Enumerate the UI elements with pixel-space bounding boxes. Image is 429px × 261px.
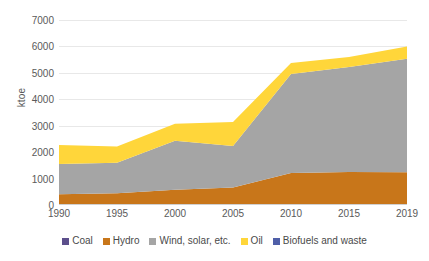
legend-swatch-icon xyxy=(273,238,280,245)
legend-item[interactable]: Coal xyxy=(62,236,93,246)
x-axis-tick-label: 2019 xyxy=(396,208,418,219)
legend-item-label: Hydro xyxy=(113,236,140,246)
legend-item-label: Oil xyxy=(251,236,263,246)
x-axis-tick-label: 2000 xyxy=(164,208,186,219)
legend-swatch-icon xyxy=(149,238,156,245)
x-axis-tick-label: 2015 xyxy=(338,208,360,219)
legend-swatch-icon xyxy=(241,238,248,245)
legend-item-label: Coal xyxy=(72,236,93,246)
x-axis-tick-label: 1990 xyxy=(48,208,70,219)
y-axis-tick-label: 6000 xyxy=(0,41,54,52)
x-axis-tick-labels: 1990199520002005201020152019 xyxy=(0,208,429,224)
y-axis-tick-label: 2000 xyxy=(0,147,54,158)
x-axis-tick-label: 1995 xyxy=(106,208,128,219)
y-axis-tick-label: 3000 xyxy=(0,120,54,131)
y-axis-tick-label: 1000 xyxy=(0,173,54,184)
chart-legend: CoalHydroWind, solar, etc.OilBiofuels an… xyxy=(0,236,429,246)
x-axis-tick-label: 2005 xyxy=(222,208,244,219)
legend-item[interactable]: Oil xyxy=(241,236,263,246)
y-axis-tick-label: 4000 xyxy=(0,94,54,105)
area-chart: ktoe 01000200030004000500060007000 19901… xyxy=(0,0,429,261)
legend-item[interactable]: Biofuels and waste xyxy=(273,236,367,246)
y-axis-tick-label: 7000 xyxy=(0,15,54,26)
legend-item-label: Biofuels and waste xyxy=(283,236,367,246)
x-axis-line xyxy=(59,204,407,205)
y-axis-tick-labels: 01000200030004000500060007000 xyxy=(0,20,54,205)
legend-item[interactable]: Wind, solar, etc. xyxy=(149,236,230,246)
y-axis-tick-label: 5000 xyxy=(0,67,54,78)
legend-item-label: Wind, solar, etc. xyxy=(159,236,230,246)
plot-area xyxy=(59,20,407,205)
legend-swatch-icon xyxy=(62,238,69,245)
stacked-area-series xyxy=(59,20,407,205)
legend-item[interactable]: Hydro xyxy=(103,236,140,246)
legend-swatch-icon xyxy=(103,238,110,245)
x-axis-tick-label: 2010 xyxy=(280,208,302,219)
